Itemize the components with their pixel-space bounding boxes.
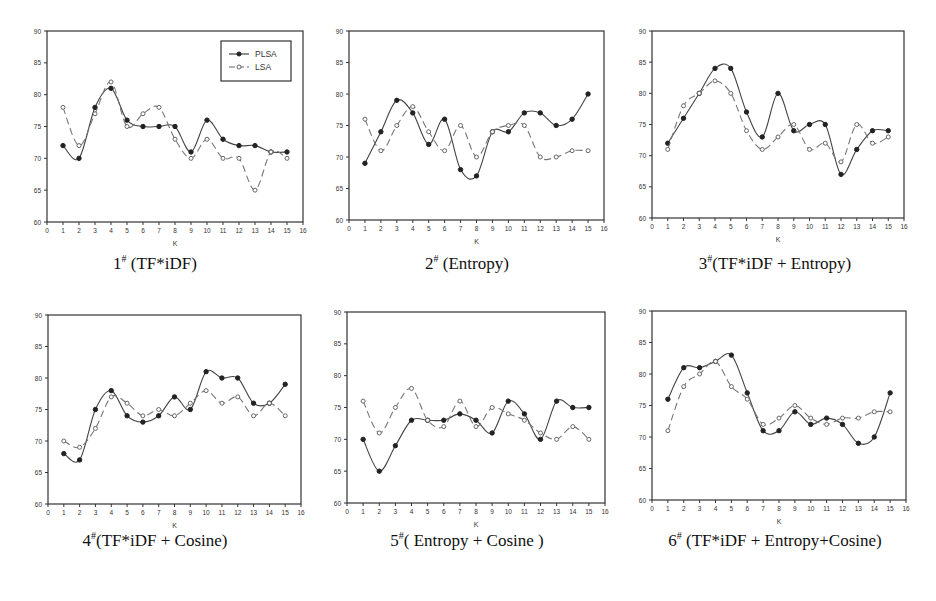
data-point-plsa (409, 418, 413, 422)
data-point-plsa (587, 405, 591, 409)
data-point-plsa (554, 399, 558, 403)
y-tick-label: 85 (639, 339, 647, 346)
caption-text: (TF*iDF + Cosine) (96, 531, 227, 550)
x-tick-label: 14 (266, 509, 274, 516)
data-point-plsa (442, 418, 446, 422)
data-point-lsa (377, 431, 381, 435)
x-tick-label: 2 (78, 509, 82, 516)
data-point-plsa (109, 388, 113, 392)
x-tick-label: 1 (666, 505, 670, 512)
data-point-lsa (682, 385, 686, 389)
x-tick-label: 4 (411, 225, 415, 232)
data-point-lsa (109, 80, 113, 84)
data-point-lsa (157, 105, 161, 109)
x-tick-label: 6 (442, 508, 446, 515)
data-point-lsa (237, 156, 241, 160)
data-point-lsa (141, 112, 145, 116)
chart-caption-5: 5#( Entropy + Cosine ) (312, 530, 622, 551)
x-tick-label: 2 (682, 223, 686, 230)
x-tick-label: 10 (807, 505, 815, 512)
x-tick-label: 15 (887, 505, 895, 512)
data-point-lsa (666, 147, 670, 151)
chart-caption-2: 2# (Entropy) (312, 253, 622, 274)
caption-text: (TF*iDF) (127, 254, 197, 273)
data-point-lsa (777, 416, 781, 420)
y-tick-label: 70 (639, 434, 647, 441)
y-tick-label: 85 (35, 343, 43, 350)
x-tick-label: 5 (427, 225, 431, 232)
data-point-plsa (586, 92, 590, 96)
data-point-lsa (188, 401, 192, 405)
x-tick-label: 14 (569, 508, 577, 515)
x-tick-label: 12 (839, 505, 847, 512)
data-point-plsa (204, 370, 208, 374)
x-tick-label: 15 (283, 227, 291, 234)
x-tick-label: 8 (475, 225, 479, 232)
data-point-plsa (490, 431, 494, 435)
x-tick-label: 13 (855, 505, 863, 512)
data-point-plsa (125, 118, 129, 122)
plot-frame (48, 315, 301, 504)
data-point-plsa (220, 376, 224, 380)
legend-marker-lsa (237, 65, 241, 69)
y-tick-label: 90 (639, 28, 647, 35)
x-tick-label: 4 (410, 508, 414, 515)
data-point-lsa (204, 389, 208, 393)
x-tick-label: 11 (220, 227, 227, 234)
data-point-plsa (426, 142, 430, 146)
x-tick-label: 11 (521, 508, 528, 515)
data-point-lsa (808, 147, 812, 151)
chart-caption-3: 3#(TF*iDF + Entropy) (620, 253, 930, 274)
data-point-lsa (442, 425, 446, 429)
data-point-plsa (393, 444, 397, 448)
data-point-plsa (141, 420, 145, 424)
x-tick-label: 1 (361, 508, 365, 515)
caption-number: 5 (390, 531, 399, 550)
data-point-plsa (251, 401, 255, 405)
x-tick-label: 14 (871, 505, 879, 512)
x-tick-label: 10 (203, 509, 211, 516)
x-tick-label: 10 (505, 225, 513, 232)
chart-caption-1: 1# (TF*iDF) (0, 253, 310, 274)
x-tick-label: 12 (234, 509, 242, 516)
data-point-lsa (571, 425, 575, 429)
x-tick-label: 7 (761, 505, 765, 512)
x-tick-label: 16 (600, 225, 608, 232)
data-point-lsa (713, 79, 717, 83)
y-tick-label: 60 (334, 500, 342, 507)
x-tick-label: 16 (601, 508, 609, 515)
data-point-lsa (77, 144, 81, 148)
data-point-lsa (395, 124, 399, 128)
x-tick-label: 16 (299, 227, 307, 234)
data-point-plsa (823, 122, 827, 126)
x-tick-label: 12 (537, 225, 545, 232)
data-point-lsa (714, 359, 718, 363)
data-point-lsa (490, 406, 494, 410)
data-point-lsa (283, 414, 287, 418)
y-tick-label: 60 (336, 217, 344, 224)
data-point-lsa (427, 130, 431, 134)
x-tick-label: 5 (125, 227, 129, 234)
x-tick-label: 0 (45, 227, 49, 234)
legend-box (221, 41, 291, 81)
data-point-lsa (93, 112, 97, 116)
data-point-lsa (252, 414, 256, 418)
data-point-plsa (522, 412, 526, 416)
data-point-plsa (809, 422, 813, 426)
data-point-lsa (157, 408, 161, 412)
data-point-plsa (888, 391, 892, 395)
data-point-lsa (886, 135, 890, 139)
data-point-lsa (189, 156, 193, 160)
data-point-plsa (855, 147, 859, 151)
data-point-lsa (555, 437, 559, 441)
data-point-plsa (141, 124, 145, 128)
data-point-lsa (871, 141, 875, 145)
x-tick-label: 5 (729, 223, 733, 230)
data-point-plsa (109, 86, 113, 90)
data-point-lsa (825, 422, 829, 426)
data-point-plsa (189, 150, 193, 154)
x-tick-label: 0 (650, 505, 654, 512)
y-tick-label: 85 (34, 59, 42, 66)
x-tick-label: 0 (650, 223, 654, 230)
data-point-plsa (377, 469, 381, 473)
